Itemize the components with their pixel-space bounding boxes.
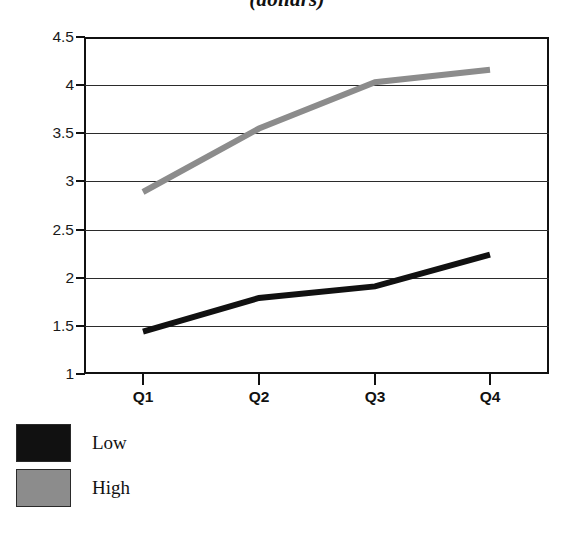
y-tick-mark	[76, 277, 85, 279]
y-tick-label: 2.5	[28, 221, 74, 239]
y-tick-mark	[76, 132, 85, 134]
legend-swatch-high	[16, 469, 71, 507]
x-tick-mark	[258, 374, 260, 385]
legend-swatch-low	[16, 424, 71, 462]
plot-area	[84, 37, 549, 374]
y-tick: 3	[22, 181, 74, 182]
y-tick-label: 4.5	[28, 28, 74, 46]
x-tick-mark	[374, 374, 376, 385]
legend-label-high: High	[92, 477, 130, 499]
gridline	[84, 230, 549, 231]
y-tick-label: 2	[28, 269, 74, 287]
gridline	[84, 85, 549, 86]
y-tick-label: 1.5	[28, 317, 74, 335]
y-tick: 4.5	[22, 37, 74, 38]
y-tick-mark	[76, 84, 85, 86]
y-tick: 1.5	[22, 326, 74, 327]
x-tick-label-q2: Q2	[229, 388, 289, 406]
y-tick-label: 3	[28, 172, 74, 190]
line-chart: (dollars) 4.543.532.521.51 Q1Q2Q3Q4 Low …	[0, 0, 574, 541]
y-tick-mark	[76, 373, 85, 375]
y-tick: 3.5	[22, 133, 74, 134]
x-tick-mark	[489, 374, 491, 385]
y-tick: 2.5	[22, 230, 74, 231]
y-tick-mark	[76, 229, 85, 231]
y-tick-mark	[76, 325, 85, 327]
legend-label-low: Low	[92, 432, 127, 454]
gridline	[84, 326, 549, 327]
y-tick-mark	[76, 180, 85, 182]
y-tick-label: 1	[28, 365, 74, 383]
gridline	[84, 181, 549, 182]
y-tick: 1	[22, 374, 74, 375]
y-tick: 4	[22, 85, 74, 86]
gridline	[84, 278, 549, 279]
x-tick-label-q1: Q1	[113, 388, 173, 406]
y-tick-mark	[76, 36, 85, 38]
y-tick-label: 4	[28, 76, 74, 94]
y-tick: 2	[22, 278, 74, 279]
x-tick-mark	[142, 374, 144, 385]
chart-title: (dollars)	[0, 0, 574, 12]
x-tick-label-q4: Q4	[460, 388, 520, 406]
y-tick-label: 3.5	[28, 124, 74, 142]
gridline	[84, 133, 549, 134]
x-tick-label-q3: Q3	[345, 388, 405, 406]
